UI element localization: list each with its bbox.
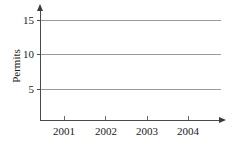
y-axis-label: Permits (10, 38, 22, 94)
y-axis-arrow-icon (37, 4, 43, 11)
x-axis-arrow-icon (219, 117, 226, 123)
y-axis-line (40, 11, 41, 120)
gridline-10 (41, 54, 221, 55)
x-tick-mark-2002 (105, 116, 106, 120)
x-tick-label-2003: 2003 (128, 126, 166, 137)
x-tick-label-2004: 2004 (169, 126, 207, 137)
x-tick-mark-2004 (188, 116, 189, 120)
x-tick-mark-2003 (147, 116, 148, 120)
gridline-15 (41, 20, 221, 21)
x-tick-label-2001: 2001 (45, 126, 83, 137)
x-tick-label-2002: 2002 (87, 126, 125, 137)
y-tick-mark-15 (37, 20, 41, 21)
y-tick-mark-10 (37, 54, 41, 55)
x-axis-line (40, 120, 221, 121)
gridline-5 (41, 89, 221, 90)
chart-container: 15 10 5 2001 2002 2003 2004 Permits (0, 0, 231, 151)
y-tick-label-15: 15 (14, 15, 34, 26)
x-tick-mark-2001 (64, 116, 65, 120)
y-tick-mark-5 (37, 89, 41, 90)
